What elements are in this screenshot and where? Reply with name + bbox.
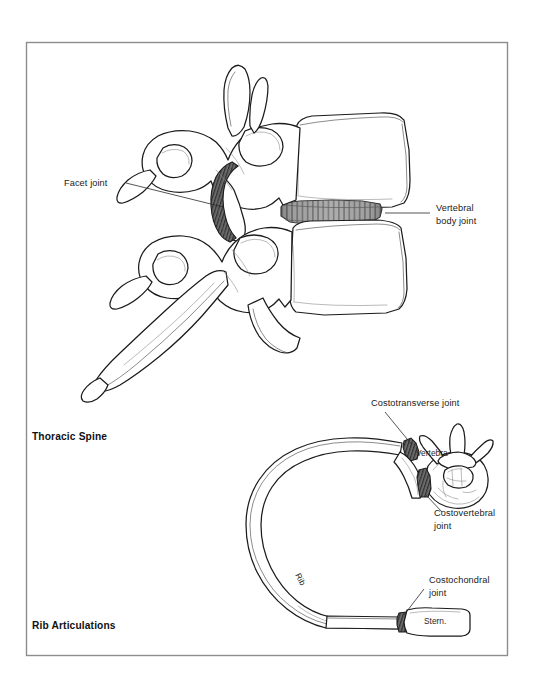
anatomy-figure: Facet joint Vertebral body joint Thoraci… — [0, 0, 538, 680]
lower-spinous-tip — [81, 378, 108, 402]
upper-superior-facet — [239, 128, 283, 166]
costovertebral-joint-label-line1: Costovertebral — [434, 508, 495, 518]
upper-accessory-process — [250, 78, 268, 133]
costotransverse-joint-leader — [385, 412, 412, 445]
facet-joint-label: Facet joint — [64, 178, 108, 188]
lower-vertebral-body — [290, 220, 407, 315]
upper-vertebral-body — [294, 113, 410, 209]
upper-transverse-tip — [117, 170, 156, 203]
lower-transverse-tip — [110, 276, 152, 309]
rib-bone — [246, 438, 402, 629]
vertebral-foramen — [444, 466, 474, 488]
thoracic-spine-title: Thoracic Spine — [32, 431, 107, 442]
sternum-label: Stern. — [424, 616, 446, 626]
costochondral-joint-label-line1: Costochondral — [429, 575, 490, 585]
vertebral-body-joint-label-line2: body joint — [436, 216, 477, 226]
figure-canvas: Facet joint Vertebral body joint Thoraci… — [0, 0, 538, 680]
vertebral-body-joint-label-line1: Vertebral — [436, 203, 474, 213]
rib-label: Rib — [293, 571, 308, 587]
lower-superior-facet — [234, 235, 278, 274]
costotransverse-joint-label: Costotransverse joint — [371, 398, 460, 408]
thoracic-spine-illustration: Facet joint Vertebral body joint Thoraci… — [32, 65, 477, 442]
costovertebral-joint-label-line2: joint — [433, 521, 452, 531]
vertebra-label: Vertebra — [416, 448, 448, 458]
costochondral-joint-label-line2: joint — [428, 588, 447, 598]
rib-articulations-title: Rib Articulations — [32, 620, 116, 631]
